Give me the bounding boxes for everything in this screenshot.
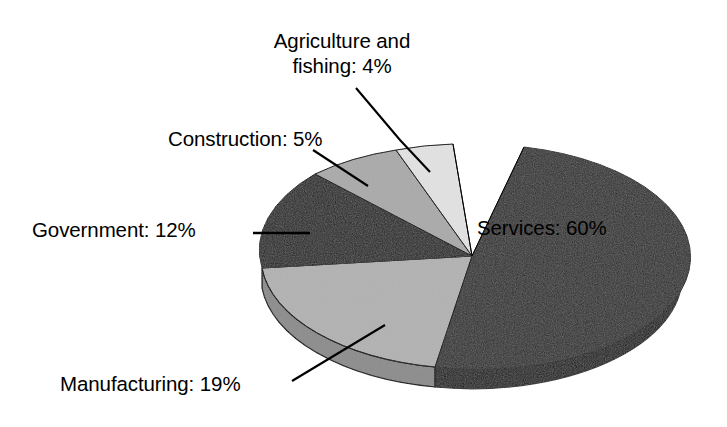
slice-manufacturing: [262, 256, 472, 367]
slice-label-agriculture-line1: Agriculture and: [274, 29, 410, 52]
pie-chart: Agriculture andfishing: 4% Construction:…: [0, 0, 727, 427]
slice-label-government: Government: 12%: [32, 217, 196, 242]
slice-label-agriculture-line2: fishing: 4%: [292, 54, 391, 77]
slice-services: [435, 147, 691, 370]
slice-label-construction: Construction: 5%: [168, 126, 323, 151]
slice-label-services: Services: 60%: [477, 215, 607, 240]
slice-label-agriculture: Agriculture andfishing: 4%: [247, 28, 437, 78]
slice-label-manufacturing: Manufacturing: 19%: [60, 371, 241, 396]
